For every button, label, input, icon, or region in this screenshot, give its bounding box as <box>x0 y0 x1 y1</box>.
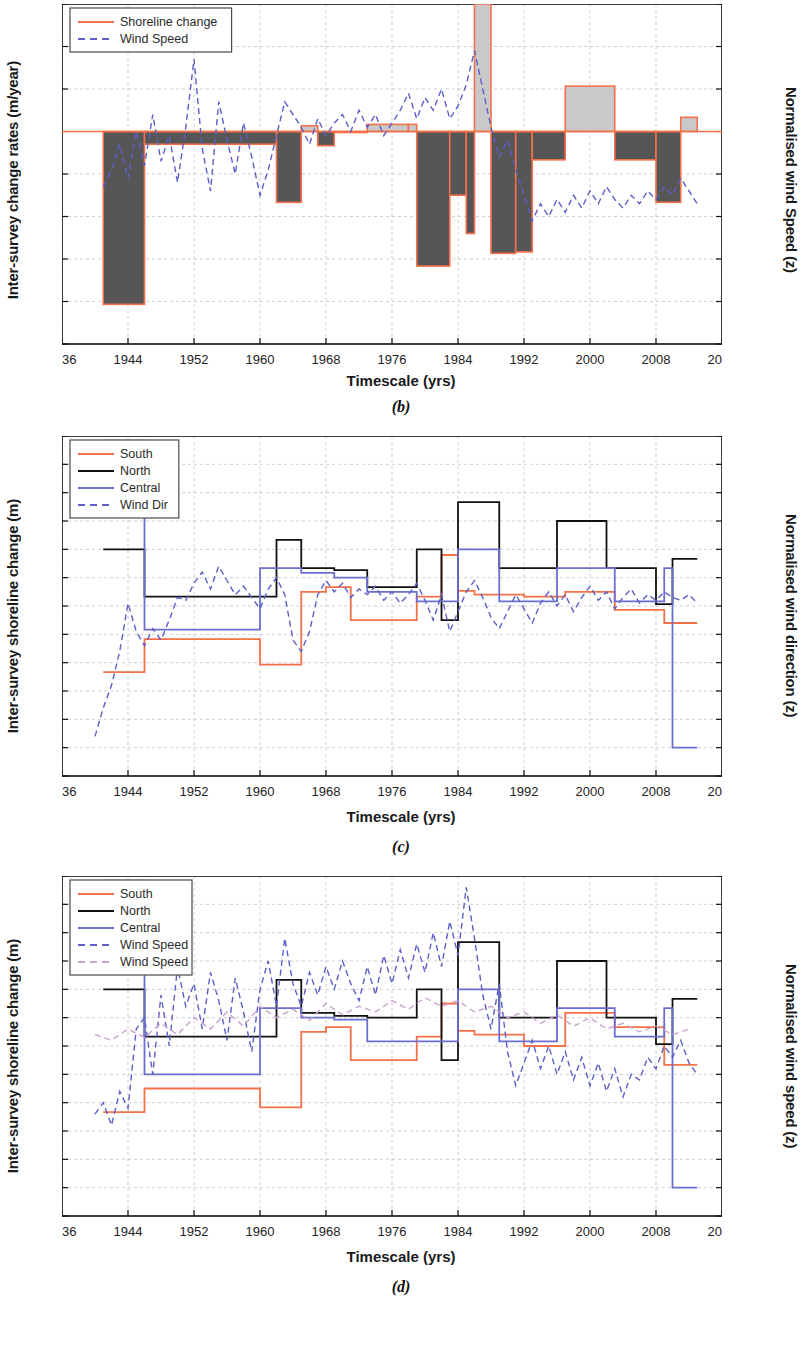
panel-b: Inter-survey change rates (m/year) Norma… <box>0 0 802 430</box>
bar <box>475 4 492 132</box>
x-tick-label: 1936 <box>62 352 76 367</box>
legend-label: Wind Speed <box>120 955 188 969</box>
panel-c-svg: 15129630-3-6-9-12-15-18-216543210-1-2-3-… <box>62 436 722 826</box>
panel-b-ylabel-left-text: Inter-survey change rates (m/year) <box>4 61 21 299</box>
panel-b-ylabel-left: Inter-survey change rates (m/year) <box>4 0 21 360</box>
step-line-north <box>103 502 697 620</box>
figure-page: Inter-survey change rates (m/year) Norma… <box>0 0 802 1370</box>
panel-d-svg: 15129630-3-6-9-12-15-18-212.521.510.50-0… <box>62 876 722 1266</box>
bar <box>466 132 474 234</box>
step-line-south <box>103 555 697 672</box>
panel-c-label: (c) <box>0 838 802 856</box>
x-tick-label: 1944 <box>114 784 143 799</box>
bar <box>318 132 335 146</box>
panel-b-svg: 0.90.60.30-0.3-0.6-0.9-1.2-1.53.52.51.50… <box>62 4 722 394</box>
bar <box>532 132 565 160</box>
bar <box>277 132 302 203</box>
x-tick-label: 1952 <box>180 1224 209 1239</box>
legend-label: Wind Speed <box>120 32 188 46</box>
x-tick-label: 1976 <box>378 784 407 799</box>
x-tick-label: 1960 <box>246 784 275 799</box>
bar <box>145 132 277 145</box>
legend-label: Central <box>120 921 160 935</box>
bar <box>450 132 467 196</box>
panel-b-ylabel-right: Normalised wind Speed (z) <box>783 0 800 360</box>
panel-d-ylabel-right-text: Normalised wind speed (z) <box>783 964 800 1148</box>
panel-b-label: (b) <box>0 398 802 416</box>
x-tick-label: 1944 <box>114 1224 143 1239</box>
x-tick-label: 1968 <box>312 1224 341 1239</box>
panel-d-xlabel: Timescale (yrs) <box>0 1248 802 1265</box>
panel-d-ylabel-right: Normalised wind speed (z) <box>783 870 800 1242</box>
legend-label: Wind Speed <box>120 938 188 952</box>
x-tick-label: 1984 <box>444 1224 473 1239</box>
panel-c: Inter-survey shoreline change (m) Normal… <box>0 430 802 870</box>
x-tick-label: 2008 <box>642 1224 671 1239</box>
x-tick-label: 1960 <box>246 1224 275 1239</box>
step-line-central <box>103 441 697 748</box>
bar <box>409 124 417 131</box>
legend-label: Shoreline change <box>120 15 217 29</box>
x-tick-label: 1936 <box>62 1224 76 1239</box>
legend-label: North <box>120 464 151 478</box>
bar <box>417 132 450 267</box>
legend: Shoreline changeWind Speed <box>70 8 232 52</box>
panel-c-plot: 15129630-3-6-9-12-15-18-216543210-1-2-3-… <box>62 436 722 826</box>
x-tick-label: 1952 <box>180 784 209 799</box>
x-tick-label: 2000 <box>576 352 605 367</box>
bar <box>681 117 698 131</box>
x-tick-label: 1968 <box>312 784 341 799</box>
x-tick-label: 2000 <box>576 784 605 799</box>
bar <box>516 132 533 252</box>
x-tick-label: 2016 <box>708 1224 722 1239</box>
legend-label: South <box>120 447 153 461</box>
panel-d-plot: 15129630-3-6-9-12-15-18-212.521.510.50-0… <box>62 876 722 1266</box>
x-tick-label: 1936 <box>62 784 76 799</box>
legend-label: North <box>120 904 151 918</box>
x-tick-label: 1992 <box>510 1224 539 1239</box>
panel-c-ylabel-left: Inter-survey shoreline change (m) <box>4 430 21 802</box>
x-tick-label: 2008 <box>642 784 671 799</box>
legend-label: Central <box>120 481 160 495</box>
legend-label: South <box>120 887 153 901</box>
x-tick-label: 2016 <box>708 784 722 799</box>
x-tick-label: 2008 <box>642 352 671 367</box>
x-tick-label: 1976 <box>378 352 407 367</box>
panel-b-ylabel-right-text: Normalised wind Speed (z) <box>783 87 800 273</box>
panel-b-xlabel: Timescale (yrs) <box>0 372 802 389</box>
panel-d: Inter-survey shoreline change (m) Normal… <box>0 870 802 1310</box>
panel-d-label: (d) <box>0 1278 802 1296</box>
panel-c-ylabel-right-text: Normalised wind direction (z) <box>783 514 800 717</box>
x-tick-label: 1952 <box>180 352 209 367</box>
x-tick-label: 1984 <box>444 352 473 367</box>
x-tick-label: 1976 <box>378 1224 407 1239</box>
legend: SouthNorthCentralWind Dir <box>70 440 179 518</box>
panel-b-plot: 0.90.60.30-0.3-0.6-0.9-1.2-1.53.52.51.50… <box>62 4 722 394</box>
bar <box>103 132 144 305</box>
x-tick-label: 1960 <box>246 352 275 367</box>
x-tick-label: 1944 <box>114 352 143 367</box>
bar <box>367 124 408 131</box>
panel-c-xlabel: Timescale (yrs) <box>0 808 802 825</box>
panel-d-ylabel-left: Inter-survey shoreline change (m) <box>4 870 21 1242</box>
x-tick-label: 1984 <box>444 784 473 799</box>
x-tick-label: 2016 <box>708 352 722 367</box>
legend-label: Wind Dir <box>120 498 168 512</box>
bar <box>565 86 615 131</box>
x-tick-label: 2000 <box>576 1224 605 1239</box>
panel-d-ylabel-left-text: Inter-survey shoreline change (m) <box>4 939 21 1173</box>
x-tick-label: 1992 <box>510 352 539 367</box>
legend: SouthNorthCentralWind SpeedWind Speed <box>70 880 192 975</box>
x-tick-label: 1968 <box>312 352 341 367</box>
bar <box>615 132 656 160</box>
panel-c-ylabel-right: Normalised wind direction (z) <box>783 430 800 802</box>
step-line-south <box>103 1004 697 1113</box>
bar <box>491 132 516 254</box>
panel-c-ylabel-left-text: Inter-survey shoreline change (m) <box>4 499 21 733</box>
x-tick-label: 1992 <box>510 784 539 799</box>
bar <box>301 126 318 132</box>
